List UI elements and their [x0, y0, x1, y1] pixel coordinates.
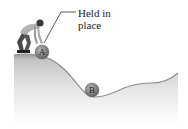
annotation-leader-line — [44, 12, 76, 43]
annotation-place: place — [78, 19, 101, 31]
ball-b: B — [85, 83, 99, 97]
physics-diagram: A B Held in place — [0, 0, 188, 129]
ball-a-label: A — [39, 47, 46, 57]
ball-a: A — [35, 45, 49, 59]
annotation-held-in: Held in — [78, 7, 111, 19]
ball-b-label: B — [89, 85, 95, 95]
